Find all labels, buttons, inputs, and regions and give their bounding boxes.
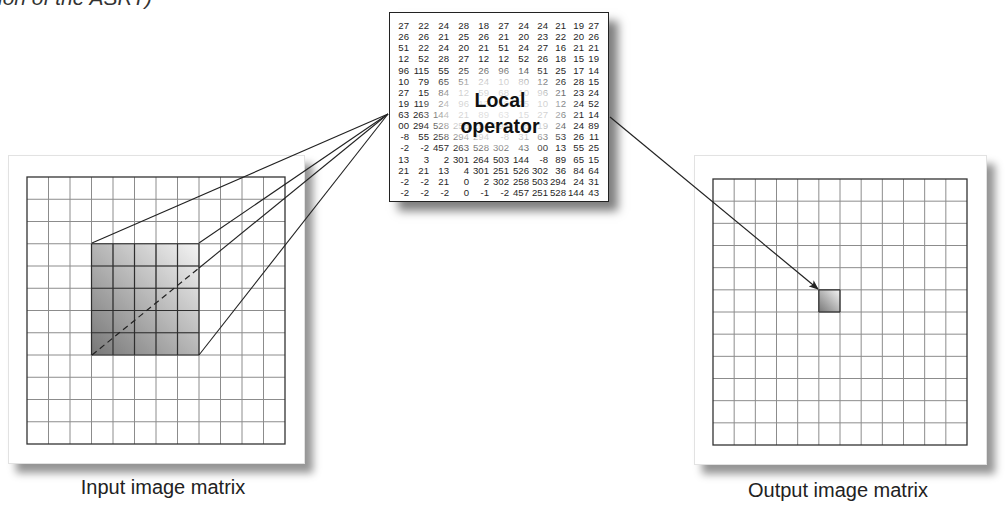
matrix-value: 301 [469, 165, 489, 176]
output-matrix-label: Output image matrix [688, 478, 988, 502]
matrix-value: 21 [566, 42, 584, 53]
matrix-value: 4 [449, 165, 469, 176]
matrix-value: 36 [548, 165, 566, 176]
matrix-value: 13 [429, 165, 449, 176]
matrix-value: 21 [409, 165, 429, 176]
output-image-matrix-card [694, 155, 987, 465]
input-image-matrix-card [8, 155, 305, 464]
matrix-value: 22 [409, 42, 429, 53]
matrix-value: 251 [489, 165, 509, 176]
matrix-value: 21 [584, 42, 599, 53]
matrix-value: 0 [449, 187, 469, 198]
matrix-value: 20 [509, 31, 529, 42]
matrix-value: 251 [529, 187, 548, 198]
local-operator-label-line2: operator [392, 115, 608, 137]
matrix-value: 51 [489, 42, 509, 53]
matrix-value: 503 [529, 176, 548, 187]
input-matrix-label: Input image matrix [13, 475, 313, 499]
matrix-value: 24 [509, 42, 529, 53]
matrix-value: 21 [429, 31, 449, 42]
matrix-value: 19 [566, 20, 584, 31]
matrix-value: 27 [489, 20, 509, 31]
matrix-value: 294 [548, 176, 566, 187]
matrix-value: 526 [509, 165, 529, 176]
matrix-value: 15 [584, 76, 599, 87]
matrix-row: 2722242818272424211927 [390, 20, 599, 31]
matrix-value: 14 [584, 65, 599, 76]
matrix-value: 22 [409, 20, 429, 31]
matrix-value: 96 [390, 65, 409, 76]
matrix-value: 12 [390, 53, 409, 64]
matrix-value: 302 [489, 176, 509, 187]
matrix-value: -2 [390, 142, 409, 153]
matrix-value: 15 [584, 154, 599, 165]
matrix-value: 84 [566, 165, 584, 176]
matrix-row: -2-221023022585032942431 [390, 176, 599, 187]
matrix-row: 2626212526212023222026 [390, 31, 599, 42]
matrix-value: 28 [449, 20, 469, 31]
matrix-value: 26 [390, 31, 409, 42]
matrix-value: 24 [509, 20, 529, 31]
matrix-value: -2 [409, 187, 429, 198]
matrix-value: -2 [429, 187, 449, 198]
matrix-value: 19 [584, 53, 599, 64]
matrix-value: -2 [390, 187, 409, 198]
matrix-value: 24 [566, 176, 584, 187]
matrix-value: 2 [469, 176, 489, 187]
matrix-value: 31 [584, 176, 599, 187]
matrix-value: 51 [390, 42, 409, 53]
matrix-value: 21 [429, 176, 449, 187]
matrix-value: 21 [489, 31, 509, 42]
matrix-value: 528 [548, 187, 566, 198]
matrix-value: 457 [509, 187, 529, 198]
matrix-value: -2 [390, 176, 409, 187]
matrix-value: 27 [584, 20, 599, 31]
matrix-value: 144 [566, 187, 584, 198]
matrix-value: 27 [529, 42, 548, 53]
matrix-value: 43 [584, 187, 599, 198]
matrix-value: 21 [469, 42, 489, 53]
matrix-value: -2 [489, 187, 509, 198]
matrix-value: 26 [584, 31, 599, 42]
matrix-value: 21 [390, 165, 409, 176]
matrix-value: 24 [529, 20, 548, 31]
matrix-value: 21 [548, 20, 566, 31]
matrix-value: 24 [429, 20, 449, 31]
matrix-value: 26 [409, 31, 429, 42]
matrix-value: 64 [584, 165, 599, 176]
figure-caption-fragment: ion of the ASRT) [0, 0, 152, 10]
matrix-value: 23 [529, 31, 548, 42]
matrix-value: 16 [548, 42, 566, 53]
matrix-value: -1 [469, 187, 489, 198]
matrix-value: 25 [449, 31, 469, 42]
local-operator-label-line1: Local [392, 89, 608, 111]
matrix-value: 24 [429, 42, 449, 53]
matrix-value: 25 [584, 142, 599, 153]
matrix-row: -2-2-20-1-245725152814443 [390, 187, 599, 198]
matrix-row: 5122242021512427162121 [390, 42, 599, 53]
matrix-value: 13 [390, 154, 409, 165]
matrix-value: 20 [566, 31, 584, 42]
matrix-value: 10 [390, 76, 409, 87]
matrix-value: -2 [409, 176, 429, 187]
matrix-value: 18 [469, 20, 489, 31]
matrix-value: 258 [509, 176, 529, 187]
local-operator-card: 2722242818272424211927262621252621202322… [389, 12, 609, 202]
matrix-value: 20 [449, 42, 469, 53]
matrix-value: 0 [449, 176, 469, 187]
matrix-value: 27 [390, 20, 409, 31]
matrix-value: 26 [469, 31, 489, 42]
matrix-row: 2121134301251526302368464 [390, 165, 599, 176]
matrix-value: 302 [529, 165, 548, 176]
matrix-value: 22 [548, 31, 566, 42]
